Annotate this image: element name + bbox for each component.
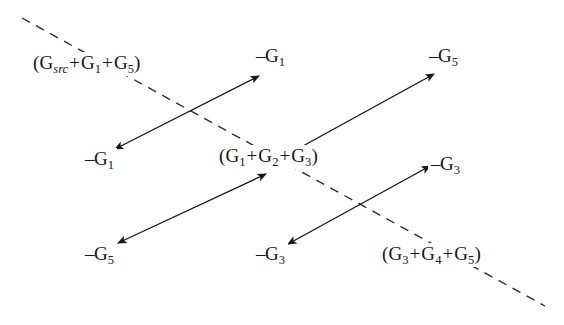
term-symbol: G (265, 243, 279, 264)
minus-sign: – (256, 45, 265, 66)
term-symbol: G (114, 52, 128, 73)
term-subscript: 5 (108, 253, 114, 267)
arrow-g3-pair (288, 166, 430, 244)
label-node-top-right: –G5 (426, 45, 461, 69)
minus-sign: – (85, 148, 94, 169)
arrow-g5-down (118, 174, 266, 243)
term-symbol: G (39, 52, 53, 73)
term-subscript: 3 (279, 253, 285, 267)
term-subscript: 3 (454, 163, 460, 177)
term-subscript: 1 (108, 158, 114, 172)
label-node-top-center: –G1 (253, 45, 288, 69)
label-cut-top-left: (Gsrc+G1+G5) (30, 52, 143, 76)
plus-operator: + (101, 52, 114, 73)
plus-operator: + (246, 145, 259, 166)
minus-sign: – (256, 243, 265, 264)
term-subscript: src (53, 62, 68, 76)
term-symbol: G (438, 45, 452, 66)
term-symbol: G (81, 52, 95, 73)
figure-canvas: (Gsrc+G1+G5) (G1+G2+G3) (G3+G4+G5) –G1 –… (0, 0, 564, 325)
plus-operator: + (68, 52, 81, 73)
plus-operator: + (278, 145, 291, 166)
minus-sign: – (429, 45, 438, 66)
arrow-g5-up (292, 74, 434, 152)
term-symbol: G (94, 148, 108, 169)
term-symbol: G (388, 243, 402, 264)
plus-operator: + (441, 243, 454, 264)
paren-close: ) (311, 145, 317, 166)
paren-close: ) (134, 52, 140, 73)
label-node-mid-left: –G1 (82, 148, 117, 172)
arrow-g1-pair (115, 76, 259, 149)
label-node-bottom-left: –G5 (82, 243, 117, 267)
minus-sign: – (431, 153, 440, 174)
term-symbol: G (265, 45, 279, 66)
term-symbol: G (94, 243, 108, 264)
term-symbol: G (225, 145, 239, 166)
label-node-bottom-center: –G3 (253, 243, 288, 267)
term-symbol: G (258, 145, 272, 166)
label-cut-bottom-right: (G3+G4+G5) (379, 243, 484, 267)
term-symbol: G (291, 145, 305, 166)
term-subscript: 1 (279, 55, 285, 69)
term-subscript: 3 (402, 253, 408, 267)
plus-operator: + (409, 243, 422, 264)
paren-close: ) (474, 243, 480, 264)
term-symbol: G (440, 153, 454, 174)
term-symbol: G (454, 243, 468, 264)
term-symbol: G (421, 243, 435, 264)
term-subscript: 1 (239, 155, 245, 169)
label-cut-center: (G1+G2+G3) (216, 145, 321, 169)
minus-sign: – (85, 243, 94, 264)
term-subscript: 5 (452, 55, 458, 69)
label-node-mid-right: –G3 (428, 153, 463, 177)
